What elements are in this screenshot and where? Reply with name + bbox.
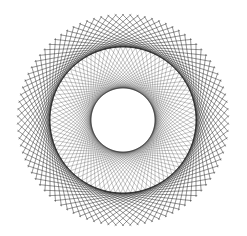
chord-lines (17, 14, 229, 226)
string-art-figure (0, 0, 247, 236)
